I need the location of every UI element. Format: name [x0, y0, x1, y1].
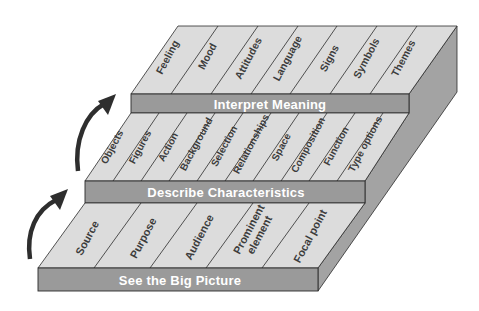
tier-describe-characteristics: Objects Figures Action Background Select…: [85, 112, 409, 203]
tier-interpret-meaning: Feeling Mood Attitudes Language Signs Sy…: [131, 26, 457, 113]
tier-see-big-picture: Source Purpose Audience Prominent elemen…: [38, 202, 365, 291]
label-see-big-picture: See the Big Picture: [119, 273, 241, 288]
arrowhead-icon: [98, 94, 116, 115]
arrowhead-icon: [50, 189, 68, 210]
label-describe-characteristics: Describe Characteristics: [147, 185, 304, 200]
step-diagram: Feeling Mood Attitudes Language Signs Sy…: [0, 0, 479, 311]
label-interpret-meaning: Interpret Meaning: [214, 97, 326, 112]
